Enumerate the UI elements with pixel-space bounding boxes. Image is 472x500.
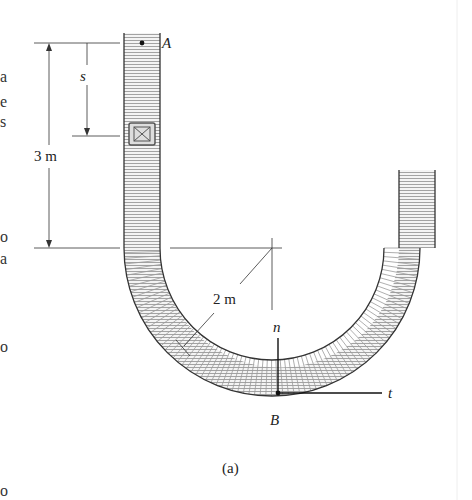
point-a-dot: [140, 41, 145, 46]
label-t: t: [388, 385, 393, 401]
label-s: s: [80, 68, 86, 84]
crate-icon: [129, 123, 155, 145]
label-3m: 3 m: [34, 148, 57, 164]
label-n: n: [273, 319, 281, 335]
chute-diagram: A s 3 m 2 m n t B (a): [0, 0, 472, 500]
chute: [124, 33, 435, 396]
label-2m: 2 m: [213, 291, 236, 307]
label-b: B: [270, 412, 279, 428]
label-a: A: [161, 35, 172, 51]
figure-caption: (a): [222, 460, 239, 477]
